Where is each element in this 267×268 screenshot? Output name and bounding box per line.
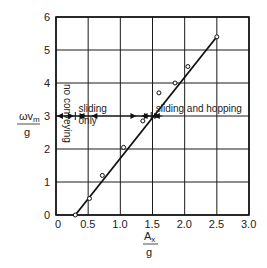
x-axis-label: Ax g (143, 230, 158, 258)
data-point (122, 145, 126, 149)
x-tick-labels: 00.51.01.52.02.53.0 (55, 218, 256, 230)
annotation-no-conveying: no conveying (62, 84, 73, 143)
y-label-denominator: g (24, 126, 30, 138)
x-tick-label: 2.0 (177, 218, 192, 230)
annotation: sliding and hopping (156, 103, 242, 114)
y-tick-label: 0 (44, 209, 50, 221)
x-tick-label: 2.5 (209, 218, 224, 230)
data-point (100, 173, 104, 177)
y-tick-label: 3 (44, 110, 50, 122)
chart: 00.51.01.52.02.53.0 0123456 no conveying… (0, 0, 267, 268)
data-point (73, 213, 77, 217)
y-axis-label: ωvm g (17, 110, 40, 138)
x-tick-label: 3.0 (241, 218, 256, 230)
data-point (186, 65, 190, 69)
y-tick-label: 4 (44, 77, 50, 89)
arrow-icon (130, 113, 136, 119)
data-point (215, 35, 219, 39)
data-point (87, 197, 91, 201)
annotation: sliding (79, 103, 107, 114)
y-tick-label: 2 (44, 143, 50, 155)
annotation: only (79, 115, 97, 126)
x-tick-label: 1.5 (145, 218, 160, 230)
x-tick-label: 1.0 (112, 218, 127, 230)
x-tick-label: 0 (55, 218, 61, 230)
x-label-numerator: Ax (144, 230, 155, 244)
y-tick-label: 5 (44, 44, 50, 56)
y-tick-labels: 0123456 (44, 11, 50, 221)
y-tick-label: 1 (44, 176, 50, 188)
data-point (173, 81, 177, 85)
x-label-denominator: g (146, 246, 152, 258)
data-point (157, 91, 161, 95)
y-tick-label: 6 (44, 11, 50, 23)
data-point (141, 119, 145, 123)
x-tick-label: 0.5 (80, 218, 95, 230)
y-label-numerator: ωvm (19, 110, 40, 124)
